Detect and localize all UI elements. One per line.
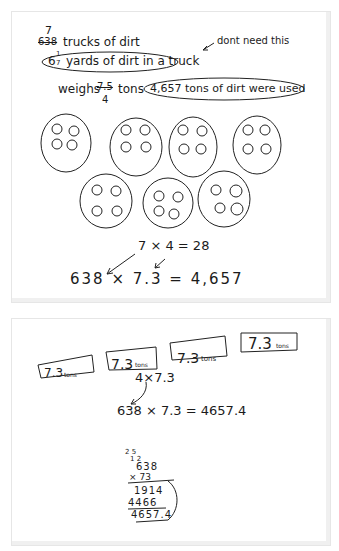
- circle-yards-line: [42, 52, 178, 72]
- group-circles: [41, 114, 281, 228]
- arrow-icon: [203, 43, 214, 50]
- arrow-icon: [155, 259, 165, 268]
- box-outline: [38, 355, 94, 378]
- box-outline: [106, 347, 157, 370]
- divider: [128, 480, 174, 483]
- box-outline: [241, 333, 297, 352]
- box-outline: [170, 336, 227, 360]
- arrow-icon: [131, 382, 146, 404]
- bracket: [136, 481, 177, 522]
- circle-total: [144, 78, 304, 100]
- divider: [128, 508, 166, 509]
- arrow-icon: [107, 254, 135, 274]
- hand-drawn-shapes: [0, 0, 339, 551]
